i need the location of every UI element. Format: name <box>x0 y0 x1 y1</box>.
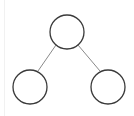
edge-root-to-right-child <box>78 45 100 71</box>
edge-root-to-left-child <box>38 45 56 71</box>
tree-diagram <box>0 0 134 116</box>
nodes <box>13 15 125 104</box>
node-left-child <box>13 70 47 104</box>
node-right-child <box>91 70 125 104</box>
node-root <box>50 15 84 49</box>
